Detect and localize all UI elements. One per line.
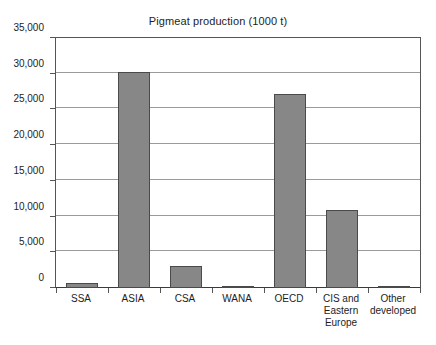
y-axis-tick-label: 5,000 — [19, 237, 44, 247]
y-axis-tick-mark — [50, 180, 55, 181]
bar — [118, 72, 150, 288]
bar-slot — [264, 38, 316, 288]
y-axis-tick-label: 15,000 — [13, 166, 44, 176]
y-axis-tick-mark — [50, 37, 55, 38]
bar — [274, 94, 306, 288]
bar — [326, 210, 358, 288]
bar-slot — [56, 38, 108, 288]
y-axis-tick-label: 25,000 — [13, 94, 44, 104]
bar — [170, 266, 202, 288]
bar-slot — [108, 38, 160, 288]
bar-chart: Pigmeat production (1000 t) 05,00010,000… — [0, 0, 436, 345]
x-axis-tick-label: Other developed — [367, 293, 419, 317]
x-axis-tick-label: OECD — [263, 293, 315, 305]
bars-layer — [56, 38, 420, 288]
x-axis-tick-label: CSA — [159, 293, 211, 305]
x-axis-tick-label: WANA — [211, 293, 263, 305]
y-axis-tick-mark — [50, 251, 55, 252]
x-axis-tick-label: ASIA — [107, 293, 159, 305]
bar-slot — [160, 38, 212, 288]
bar-slot — [368, 38, 420, 288]
y-axis-tick-mark — [50, 108, 55, 109]
bar-slot — [316, 38, 368, 288]
y-axis-tick-label: 10,000 — [13, 202, 44, 212]
x-axis-tick-label: SSA — [55, 293, 107, 305]
y-axis-tick-mark — [50, 216, 55, 217]
y-axis-tick-mark — [50, 73, 55, 74]
y-axis-tick-label: 35,000 — [13, 23, 44, 33]
bar-slot — [212, 38, 264, 288]
x-axis-tick-label: CIS and Eastern Europe — [315, 293, 367, 329]
y-axis-tick-label: 0 — [38, 273, 44, 283]
y-axis-tick-label: 20,000 — [13, 130, 44, 140]
chart-title: Pigmeat production (1000 t) — [0, 14, 436, 28]
y-axis-tick-label: 30,000 — [13, 59, 44, 69]
y-axis-labels: 05,00010,00015,00020,00025,00030,00035,0… — [0, 37, 50, 288]
x-axis-labels: SSAASIACSAWANAOECDCIS and Eastern Europe… — [55, 293, 421, 343]
y-axis-tick-mark — [50, 144, 55, 145]
